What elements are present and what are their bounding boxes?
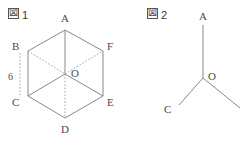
figure1-caption-mark: 図: [8, 8, 19, 19]
figure2-caption-mark: 図: [147, 8, 158, 19]
figure2-caption-number: 2: [161, 9, 168, 21]
figure1-vertex-label-A: A: [61, 12, 69, 24]
figure-canvas: 6ABCDEFO図1AOC図2: [0, 0, 244, 145]
figure1-edge-B-O: [28, 51, 65, 74]
figure1-edge-D-E: [65, 96, 103, 118]
figure1-caption-number: 1: [22, 9, 29, 21]
figure2-caption: 図2: [147, 8, 168, 21]
figure2-vertex-label-C: C: [164, 103, 171, 115]
figure2-vertex-label-O: O: [208, 70, 216, 82]
figure1-caption: 図1: [8, 8, 29, 21]
figure1-vertex-label-B: B: [12, 40, 19, 52]
figure1-vertex-label-F: F: [107, 40, 113, 52]
figure1-vertex-label-O: O: [71, 67, 79, 79]
figure1-edge-F-A: [65, 30, 103, 51]
figure1-edge-C-D: [28, 96, 65, 118]
figure1-edge-C-O: [28, 74, 65, 96]
line-group: [20, 25, 240, 118]
figure1-edge-A-B: [28, 30, 65, 51]
figure1-vertex-label-E: E: [107, 96, 114, 108]
figure2-vertex-label-A: A: [199, 10, 207, 22]
figure1-measure-B-C-label: 6: [8, 71, 13, 82]
figure2-edge-C-O: [179, 78, 203, 105]
figure1-vertex-label-C: C: [12, 96, 19, 108]
figure1-vertex-label-D: D: [61, 123, 69, 135]
figure2-edge-O-R: [203, 78, 240, 108]
